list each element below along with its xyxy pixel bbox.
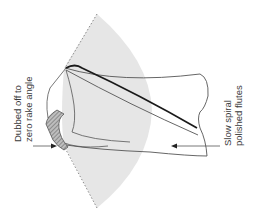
label-slow-spiral-line2: polished flutes <box>233 85 244 146</box>
label-slow-spiral-line1: Slow spiral <box>222 85 233 146</box>
label-dubbed-off-line1: Dubbed off to <box>12 77 23 142</box>
arrowhead-left-icon <box>171 144 177 149</box>
label-dubbed-off: Dubbed off to zero rake angle <box>12 77 34 142</box>
angle-sector <box>62 14 152 208</box>
label-dubbed-off-line2: zero rake angle <box>23 77 34 142</box>
label-slow-spiral: Slow spiral polished flutes <box>222 85 244 146</box>
drill-point-diagram: Dubbed off to zero rake angle Slow spira… <box>0 0 257 212</box>
